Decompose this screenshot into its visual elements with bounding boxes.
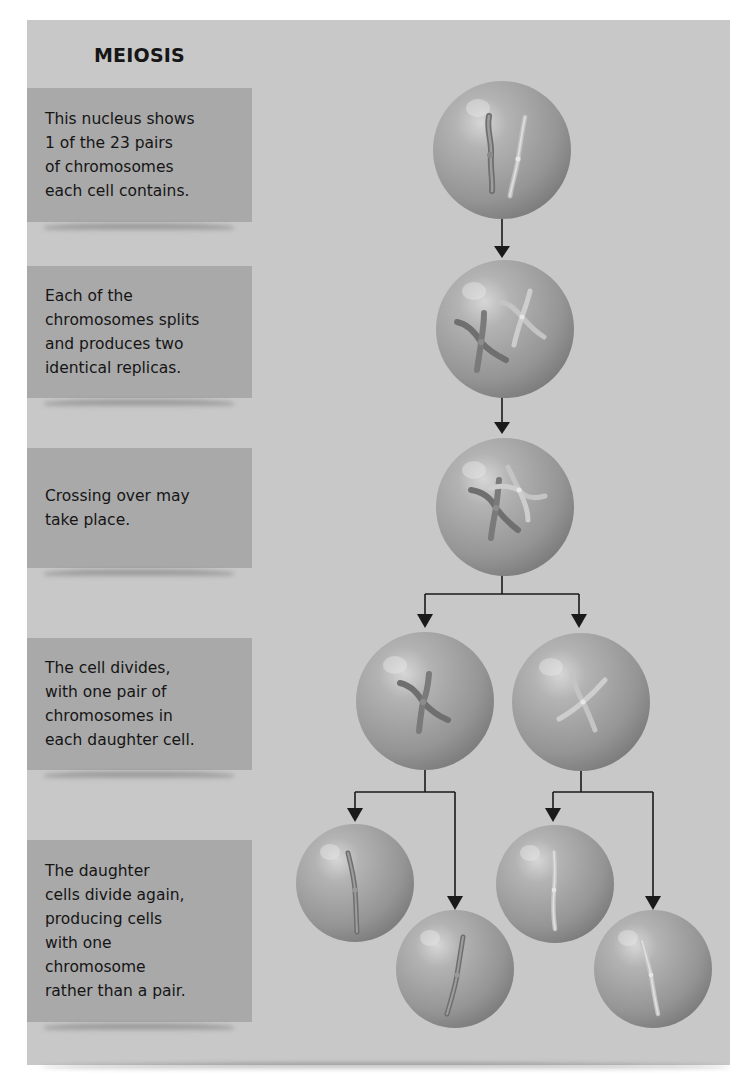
- cell-daughter-1: [356, 632, 494, 770]
- cell-gamete-3: [496, 825, 614, 943]
- cell-gamete-2: [396, 910, 514, 1028]
- arrow-head-icon: [645, 896, 661, 910]
- cell-crossing-over: [436, 438, 574, 576]
- cell-replicated: [436, 260, 574, 398]
- arrow-head-icon: [494, 422, 510, 434]
- arrow-head-icon: [571, 614, 587, 628]
- arrow-head-icon: [447, 896, 463, 910]
- arrow-head-icon: [494, 246, 510, 258]
- arrow-head-icon: [545, 808, 561, 822]
- cell-gamete-4: [594, 910, 712, 1028]
- cell-gamete-1: [296, 824, 414, 942]
- arrow-head-icon: [347, 808, 363, 822]
- cell-daughter-2: [512, 633, 650, 771]
- arrow-head-icon: [417, 614, 433, 628]
- chromosome-single-light-icon: [552, 852, 557, 929]
- meiosis-diagram: [0, 0, 749, 1086]
- cell-nucleus: [433, 81, 571, 219]
